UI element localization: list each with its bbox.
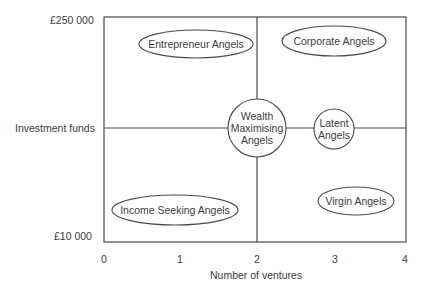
x-tick-1: 1 xyxy=(177,253,183,265)
entrepreneur-angels-label: Entrepreneur Angels xyxy=(139,37,253,51)
wealth-maximising-angels-label: Wealth Maximising Angels xyxy=(228,106,286,150)
latent-angels-label: Latent Angels xyxy=(314,115,354,143)
y-axis-bottom-value: £10 000 xyxy=(54,231,92,242)
virgin-angels-label: Virgin Angels xyxy=(318,194,394,208)
wealth-maximising-line2: Maximising xyxy=(231,122,284,134)
x-axis-label: Number of ventures xyxy=(210,270,302,281)
latent-angels-line2: Angels xyxy=(318,129,350,141)
x-tick-2: 2 xyxy=(254,253,260,265)
y-axis-label: Investment funds xyxy=(15,123,95,134)
wealth-maximising-line3: Angels xyxy=(241,134,273,146)
corporate-angels-label: Corporate Angels xyxy=(282,34,386,48)
income-seeking-angels-label: Income Seeking Angels xyxy=(112,203,238,217)
angel-investor-typology-diagram: £250 000 Investment funds £10 000 0 1 2 … xyxy=(0,0,422,291)
latent-angels-line1: Latent xyxy=(319,117,348,129)
x-tick-3: 3 xyxy=(332,253,338,265)
wealth-maximising-line1: Wealth xyxy=(241,110,274,122)
y-axis-top-value: £250 000 xyxy=(50,15,94,26)
x-tick-4: 4 xyxy=(402,253,408,265)
x-tick-0: 0 xyxy=(101,253,107,265)
